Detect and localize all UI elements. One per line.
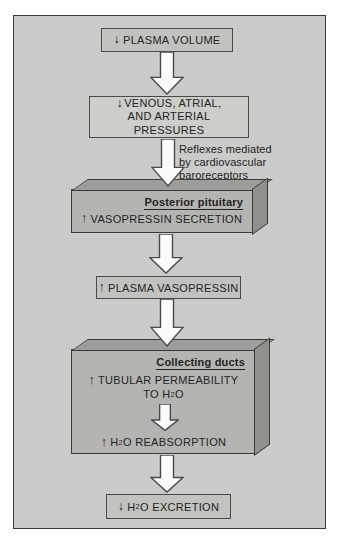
down-arrow-icon: ↓ <box>114 33 121 46</box>
vasopressin-secretion-row: ↑ VASOPRESSIN SECRETION <box>81 213 242 226</box>
pressures-box: ↓ VENOUS, ATRIAL, AND ARTERIAL PRESSURES <box>89 96 249 138</box>
reflex-note: Reflexes mediated by cardiovascular baro… <box>179 143 272 182</box>
to-h2o-row: TO H2O <box>72 388 255 400</box>
plasma-vasopressin-box: ↑ PLASMA VASOPRESSIN <box>96 276 241 299</box>
pressures-line-2: AND ARTERIAL <box>128 110 211 124</box>
to-h2o-post: O <box>175 388 184 400</box>
flow-arrow-down-icon <box>149 234 183 274</box>
h2o-excretion-pre: H <box>127 501 135 513</box>
vasopressin-secretion-label: VASOPRESSIN SECRETION <box>91 213 243 225</box>
down-arrow-icon: ↓ <box>118 500 125 513</box>
up-arrow-icon: ↑ <box>88 374 95 387</box>
plasma-volume-label: PLASMA VOLUME <box>123 34 220 46</box>
plasma-vasopressin-label: PLASMA VASOPRESSIN <box>108 282 239 294</box>
collecting-ducts-title: Collecting ducts <box>156 356 245 370</box>
reflex-note-line-2: by cardiovascular <box>179 156 272 169</box>
h2o-reabsorption-pre: H <box>110 436 118 448</box>
flowchart-panel: ↓ PLASMA VOLUME ↓ VENOUS, ATRIAL, AND AR… <box>13 15 326 529</box>
reflex-note-line-1: Reflexes mediated <box>179 143 272 156</box>
up-arrow-icon: ↑ <box>101 436 108 449</box>
flow-arrow-down-icon <box>150 455 184 493</box>
tubular-permeability-row: ↑ TUBULAR PERMEABILITY <box>72 374 255 387</box>
pressures-line-1: VENOUS, ATRIAL, <box>124 97 221 111</box>
tubular-permeability-label: TUBULAR PERMEABILITY <box>98 374 238 386</box>
h2o-reabsorption-row: ↑ H2O REABSORPTION <box>72 436 255 449</box>
h2o-excretion-post: O EXCRETION <box>140 501 219 513</box>
posterior-pituitary-box: Posterior pituitary ↑ VASOPRESSIN SECRET… <box>71 189 254 233</box>
down-arrow-icon: ↓ <box>117 97 124 110</box>
flow-arrow-down-icon <box>151 139 185 187</box>
collecting-ducts-box: Collecting ducts ↑ TUBULAR PERMEABILITY … <box>71 349 256 454</box>
plasma-volume-box: ↓ PLASMA VOLUME <box>101 28 233 52</box>
flow-arrow-down-icon <box>151 404 179 431</box>
flow-arrow-down-icon <box>150 52 184 95</box>
up-arrow-icon: ↑ <box>98 281 105 294</box>
h2o-reabsorption-post: O REABSORPTION <box>123 436 226 448</box>
to-h2o-pre: TO H <box>143 388 170 400</box>
posterior-pituitary-title: Posterior pituitary <box>144 196 243 210</box>
flow-arrow-down-icon <box>150 299 184 347</box>
h2o-excretion-box: ↓ H2O EXCRETION <box>106 494 231 519</box>
up-arrow-icon: ↑ <box>81 212 88 225</box>
pressures-line-3: PRESSURES <box>134 124 205 138</box>
figure-page: ↓ PLASMA VOLUME ↓ VENOUS, ATRIAL, AND AR… <box>0 0 339 541</box>
